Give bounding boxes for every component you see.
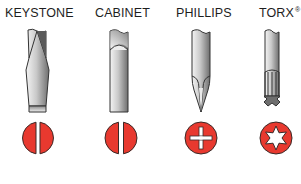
- cabinet-tip-icon: [107, 28, 131, 114]
- phillips-screw-head-icon: [184, 121, 218, 155]
- label-keystone: KEYSTONE: [5, 6, 74, 20]
- label-phillips: PHILLIPS: [176, 6, 232, 20]
- slotted-screw-head-icon: [21, 121, 55, 155]
- slotted-screw-head-icon: [104, 121, 138, 155]
- registered-mark: ®: [295, 6, 300, 13]
- label-torx: TORX®: [259, 6, 300, 20]
- label-cabinet: CABINET: [95, 6, 150, 20]
- torx-screw-head-icon: [259, 121, 293, 155]
- torx-tip-icon: [262, 28, 282, 114]
- phillips-tip-icon: [188, 28, 214, 114]
- keystone-tip-icon: [24, 28, 52, 114]
